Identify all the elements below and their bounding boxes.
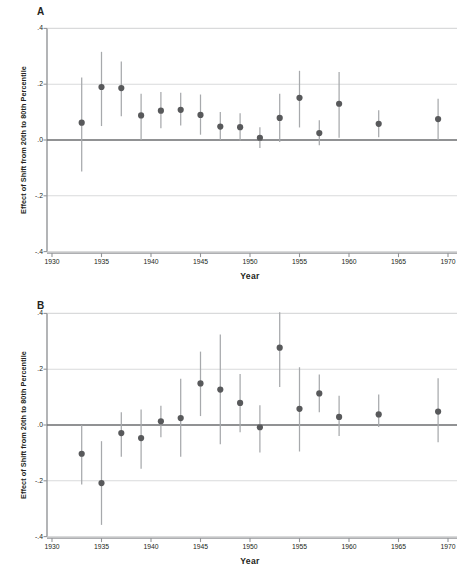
data-point-marker	[79, 451, 85, 457]
y-axis-tick-label: .2	[25, 365, 43, 372]
panel-a-x-axis-title: Year	[205, 271, 295, 281]
x-axis-tick-label: 1970	[434, 258, 462, 265]
data-point-marker	[316, 390, 322, 396]
y-axis-tick-label: -.2	[25, 192, 43, 199]
x-axis-tick-label: 1945	[187, 543, 215, 550]
x-axis-tick-label: 1955	[286, 543, 314, 550]
data-point-marker	[158, 418, 164, 424]
data-point-marker	[158, 108, 164, 114]
x-axis-tick-label: 1950	[236, 543, 264, 550]
y-axis-tick-label: .4	[25, 309, 43, 316]
panel-a-label: A	[37, 6, 44, 17]
y-axis-tick-label: .2	[25, 80, 43, 87]
x-axis-tick-label: 1960	[335, 543, 363, 550]
data-point-marker	[197, 380, 203, 386]
data-point-marker	[257, 424, 263, 430]
y-axis-tick-label: .4	[25, 24, 43, 31]
data-point-marker	[98, 84, 104, 90]
y-axis-tick-label: -.2	[25, 477, 43, 484]
data-point-marker	[435, 116, 441, 122]
x-axis-tick-label: 1935	[88, 258, 116, 265]
data-point-marker	[296, 95, 302, 101]
data-point-marker	[277, 345, 283, 351]
data-point-marker	[296, 406, 302, 412]
data-point-marker	[217, 386, 223, 392]
x-axis-tick-label: 1940	[137, 258, 165, 265]
data-point-marker	[237, 124, 243, 130]
x-axis-tick-label: 1940	[137, 543, 165, 550]
x-axis-tick-label: 1960	[335, 258, 363, 265]
panel-b-x-axis-title: Year	[205, 556, 295, 566]
data-point-marker	[336, 101, 342, 107]
data-point-marker	[237, 400, 243, 406]
data-point-marker	[79, 120, 85, 126]
y-axis-tick-label: .0	[25, 421, 43, 428]
x-axis-tick-label: 1945	[187, 258, 215, 265]
data-point-marker	[316, 130, 322, 136]
data-point-marker	[376, 411, 382, 417]
data-point-marker	[178, 107, 184, 113]
data-point-marker	[217, 124, 223, 130]
x-axis-tick-label: 1935	[88, 543, 116, 550]
data-point-marker	[118, 85, 124, 91]
data-point-marker	[257, 135, 263, 141]
y-axis-tick-label: -.4	[25, 248, 43, 255]
data-point-marker	[98, 480, 104, 486]
data-point-marker	[435, 409, 441, 415]
x-axis-tick-label: 1930	[38, 543, 66, 550]
panel-a-plot-area	[47, 22, 459, 258]
x-axis-tick-label: 1970	[434, 543, 462, 550]
data-point-marker	[118, 430, 124, 436]
x-axis-tick-label: 1955	[286, 258, 314, 265]
y-axis-tick-label: .0	[25, 136, 43, 143]
y-axis-tick-label: -.4	[25, 533, 43, 540]
panel-b-plot-area	[47, 313, 459, 549]
x-axis-tick-label: 1930	[38, 258, 66, 265]
data-point-marker	[277, 115, 283, 121]
data-point-marker	[178, 415, 184, 421]
data-point-marker	[376, 121, 382, 127]
panel-b: B Effect of Shift from 20th to 80th Perc…	[0, 294, 463, 588]
data-point-marker	[336, 414, 342, 420]
x-axis-tick-label: 1950	[236, 258, 264, 265]
data-point-marker	[138, 435, 144, 441]
data-point-marker	[138, 112, 144, 118]
x-axis-tick-label: 1965	[385, 258, 413, 265]
panel-a: A Effect of Shift from 20th to 80th Perc…	[0, 0, 463, 294]
x-axis-tick-label: 1965	[385, 543, 413, 550]
data-point-marker	[197, 112, 203, 118]
